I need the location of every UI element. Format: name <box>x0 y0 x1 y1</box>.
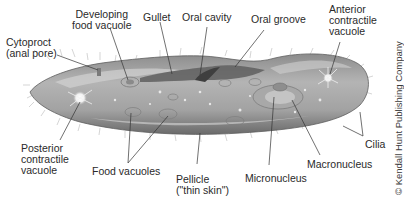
paramecium-diagram: Developing food vacuole Gullet Oral cavi… <box>0 0 404 201</box>
label-line: food vacuole <box>72 20 132 31</box>
label-pellicle: Pellicle ("thin skin") <box>176 174 229 196</box>
label-cilia: Cilia <box>365 139 385 150</box>
copyright-credit: © Kendall Hunt Publishing Company <box>393 41 404 195</box>
micronucleus-shape <box>273 83 287 91</box>
label-line: ("thin skin") <box>176 185 229 196</box>
label-developing-food-vacuole: Developing food vacuole <box>72 9 132 31</box>
label-oral-cavity: Oral cavity <box>182 12 232 23</box>
label-anterior-contractile-vacuole: Anterior contractile vacuole <box>329 4 377 37</box>
label-posterior-contractile-vacuole: Posterior contractile vacuole <box>21 143 69 176</box>
label-micronucleus: Micronucleus <box>245 173 307 184</box>
label-line: vacuole <box>329 26 377 37</box>
label-oral-groove: Oral groove <box>251 14 306 25</box>
label-cytoproct: Cytoproct (anal pore) <box>6 37 57 59</box>
label-line: (anal pore) <box>6 48 57 59</box>
label-food-vacuoles: Food vacuoles <box>92 166 160 177</box>
label-macronucleus: Macronucleus <box>307 159 372 170</box>
label-line: vacuole <box>21 165 69 176</box>
label-gullet: Gullet <box>143 12 170 23</box>
